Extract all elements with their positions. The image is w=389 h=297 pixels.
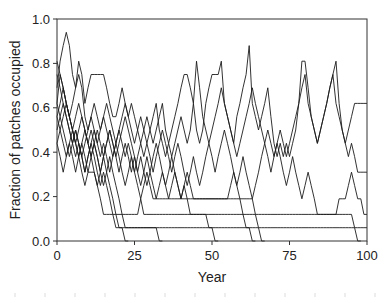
- x-axis: 0255075100: [53, 241, 377, 263]
- occupancy-chart: 0.00.20.40.60.81.0 0255075100 Year Fract…: [0, 0, 389, 297]
- series-line-1: [57, 32, 367, 156]
- y-tick-label: 0.0: [32, 234, 50, 249]
- x-tick-label: 25: [127, 248, 141, 263]
- x-axis-title: Year: [198, 269, 227, 285]
- y-tick-label: 0.6: [32, 100, 50, 115]
- y-tick-label: 0.4: [32, 145, 50, 160]
- x-tick-label: 75: [282, 248, 296, 263]
- y-tick-label: 0.2: [32, 189, 50, 204]
- series-lines: [57, 32, 367, 241]
- x-tick-label: 50: [205, 248, 219, 263]
- cutoff-caption-fragment: [0, 293, 389, 297]
- x-tick-label: 100: [356, 248, 378, 263]
- x-tick-label: 0: [53, 248, 60, 263]
- y-axis-title: Fraction of patches occupied: [7, 41, 23, 220]
- y-tick-label: 0.8: [32, 56, 50, 71]
- y-axis: 0.00.20.40.60.81.0: [32, 12, 57, 249]
- series-line-8: [57, 75, 361, 242]
- y-tick-label: 1.0: [32, 12, 50, 27]
